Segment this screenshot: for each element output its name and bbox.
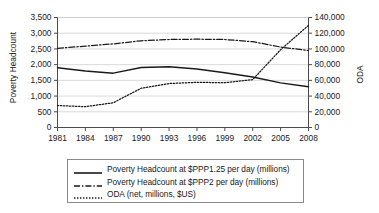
legend-item-0: Poverty Headcount at $PPP1.25 per day (m… (73, 163, 303, 176)
series-line-0 (58, 67, 309, 87)
legend-label-2: ODA (net, millions, $US) (107, 189, 196, 199)
legend-item-2: ODA (net, millions, $US) (73, 188, 303, 201)
legend-swatch-dashdot (73, 177, 103, 187)
series-line-2 (58, 25, 309, 106)
legend-swatch-dotted (73, 189, 103, 199)
tick-marks (54, 18, 312, 132)
axis-lines (58, 18, 309, 128)
chart-figure: Poverty Headcount ODA 05001,0001,5002,00… (0, 0, 379, 213)
gridlines (58, 18, 309, 112)
legend-item-1: Poverty Headcount at $PPP2 per day (mill… (73, 176, 303, 189)
data-series (58, 25, 309, 106)
legend-label-1: Poverty Headcount at $PPP2 per day (mill… (107, 177, 278, 187)
legend-label-0: Poverty Headcount at $PPP1.25 per day (m… (107, 164, 290, 174)
chart-legend: Poverty Headcount at $PPP1.25 per day (m… (67, 159, 304, 203)
legend-swatch-solid (73, 164, 103, 174)
